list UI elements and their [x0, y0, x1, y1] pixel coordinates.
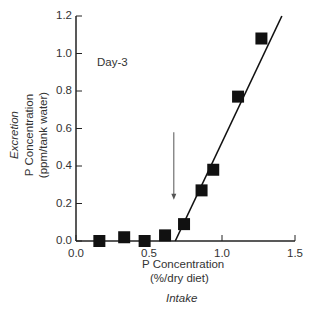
y-tick-label: 1.2: [42, 9, 72, 21]
annotation-day: Day-3: [97, 56, 128, 68]
arrow-head-icon: [171, 194, 176, 200]
y-axis-title: P Concentration: [23, 80, 36, 190]
x-axis-caption: Intake: [166, 292, 197, 304]
y-tick-label: 0.2: [42, 197, 72, 209]
y-tick-label: 1.0: [42, 47, 72, 59]
x-tick-label: 1.5: [280, 247, 310, 259]
x-axis-units: (%/dry diet): [150, 272, 209, 284]
data-point: [118, 231, 130, 243]
data-point: [232, 91, 244, 103]
fit-line: [175, 16, 282, 241]
data-point: [93, 235, 105, 247]
data-point: [255, 33, 267, 45]
x-axis-title: P Concentration: [142, 258, 224, 270]
data-point: [159, 229, 171, 241]
y-axis-units: (ppm/tank water): [37, 80, 50, 190]
data-point: [139, 235, 151, 247]
y-tick-label: 0.0: [42, 234, 72, 246]
x-tick-label: 0.0: [61, 247, 91, 259]
data-point: [207, 164, 219, 176]
data-point: [196, 184, 208, 196]
y-axis-caption: Excretion: [8, 80, 21, 190]
data-point: [178, 218, 190, 230]
